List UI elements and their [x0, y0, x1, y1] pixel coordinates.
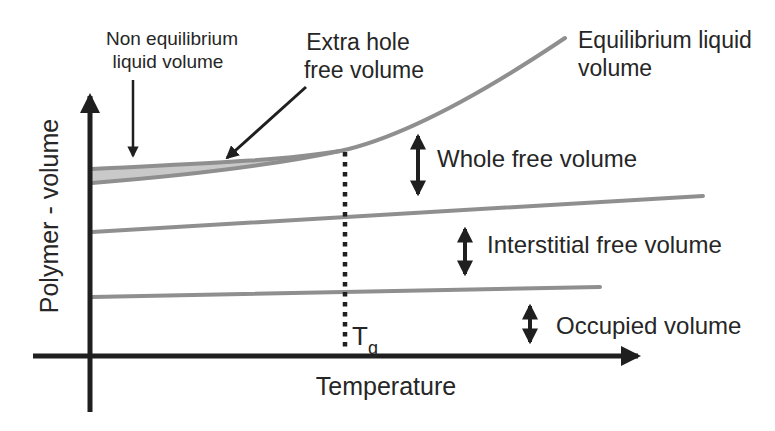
diagram-canvas: Non equilibrium liquid volume Extra hole… — [0, 0, 775, 431]
interstitial-line — [92, 196, 703, 232]
tg-symbol: T — [352, 321, 368, 351]
tg-subscript: g — [368, 338, 378, 358]
extra-hole-pointer-arrow — [227, 87, 306, 158]
free-volume-diagram: Non equilibrium liquid volume Extra hole… — [0, 0, 775, 431]
y-axis-label: Polymer - volume — [35, 119, 63, 314]
non-equilibrium-label-line1: Non equilibrium — [106, 28, 238, 49]
interstitial-free-volume-label: Interstitial free volume — [487, 231, 722, 258]
equilibrium-label-line2: volume — [578, 55, 652, 81]
equilibrium-label-line1: Equilibrium liquid — [578, 27, 752, 53]
occupied-volume-label: Occupied volume — [556, 312, 741, 339]
extra-hole-label-line2: free volume — [304, 57, 424, 83]
non-equilibrium-label-line2: liquid volume — [113, 51, 224, 72]
extra-hole-label-line1: Extra hole — [306, 29, 410, 55]
whole-free-volume-label: Whole free volume — [437, 145, 637, 172]
tg-label: Tg — [352, 321, 378, 358]
x-axis-label: Temperature — [316, 372, 456, 400]
